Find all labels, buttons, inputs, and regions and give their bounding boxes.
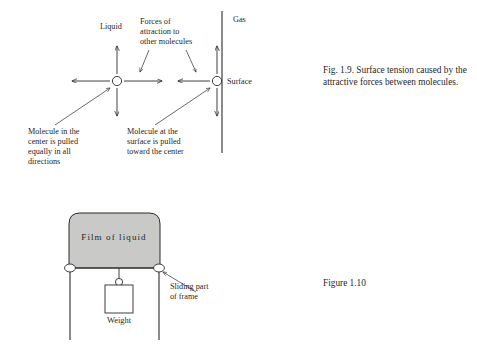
svg-text:surface is pulled: surface is pulled bbox=[127, 137, 181, 146]
forces-label: Forces of attraction to other molecules bbox=[140, 17, 192, 46]
weight-hanger-ring bbox=[115, 278, 122, 285]
svg-text:Molecule in the: Molecule in the bbox=[28, 127, 80, 136]
gas-label: Gas bbox=[233, 15, 246, 24]
figure-1-9-caption: Fig. 1.9. Surface tension caused by the … bbox=[323, 64, 469, 89]
surface-label: Surface bbox=[227, 77, 252, 86]
svg-text:Molecule at the: Molecule at the bbox=[127, 127, 178, 136]
svg-text:Sliding part: Sliding part bbox=[170, 282, 209, 291]
weight-label: Weight bbox=[107, 316, 132, 325]
figures-canvas: Liquid Gas Surface Forces of attraction … bbox=[0, 0, 477, 344]
figure-page: Liquid Gas Surface Forces of attraction … bbox=[0, 0, 477, 344]
figure-1-10-caption: Figure 1.10 bbox=[323, 277, 469, 289]
figure-1-9: Liquid Gas Surface Forces of attraction … bbox=[28, 11, 252, 166]
svg-text:Forces of: Forces of bbox=[140, 17, 171, 26]
figure-1-10: Film of liquid Weight Sliding part of fr… bbox=[65, 213, 210, 340]
ring-left bbox=[65, 264, 76, 272]
svg-text:equally in all: equally in all bbox=[28, 147, 71, 156]
ring-right bbox=[154, 264, 165, 272]
surface-note-leader bbox=[155, 88, 210, 125]
center-molecule bbox=[112, 76, 121, 85]
surface-molecule-note: Molecule at the surface is pulled toward… bbox=[127, 127, 184, 156]
svg-text:center is pulled: center is pulled bbox=[28, 137, 78, 146]
svg-text:directions: directions bbox=[28, 157, 60, 166]
forces-leader-left bbox=[140, 50, 149, 72]
svg-text:toward the center: toward the center bbox=[127, 147, 184, 156]
svg-text:attraction to: attraction to bbox=[140, 27, 179, 36]
forces-leader-right bbox=[186, 50, 196, 72]
liquid-label: Liquid bbox=[100, 22, 122, 31]
sliding-part-label: Sliding part of frame bbox=[170, 282, 209, 301]
center-molecule-note: Molecule in the center is pulled equally… bbox=[28, 127, 80, 166]
svg-text:of frame: of frame bbox=[170, 292, 198, 301]
film-label: Film of liquid bbox=[81, 232, 146, 242]
center-note-leader bbox=[55, 88, 110, 125]
surface-molecule bbox=[212, 76, 221, 85]
svg-text:other molecules: other molecules bbox=[140, 37, 192, 46]
weight-box bbox=[105, 285, 133, 313]
